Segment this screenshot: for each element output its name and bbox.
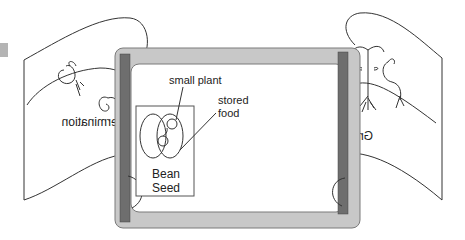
bent-sprout-icon bbox=[383, 59, 404, 108]
sprouting-seed-icon bbox=[58, 62, 84, 97]
right-bar bbox=[338, 52, 348, 214]
stored-food-label-line1: stored bbox=[218, 94, 249, 106]
seed-diagram: Germination Growth bbox=[0, 0, 465, 240]
seed-label: Seed bbox=[152, 181, 180, 195]
gray-marker bbox=[0, 43, 8, 57]
bean-label: Bean bbox=[152, 167, 180, 181]
stored-food-label-line2: food bbox=[218, 107, 239, 119]
left-bar bbox=[120, 54, 130, 222]
small-plant-label: small plant bbox=[169, 74, 222, 86]
